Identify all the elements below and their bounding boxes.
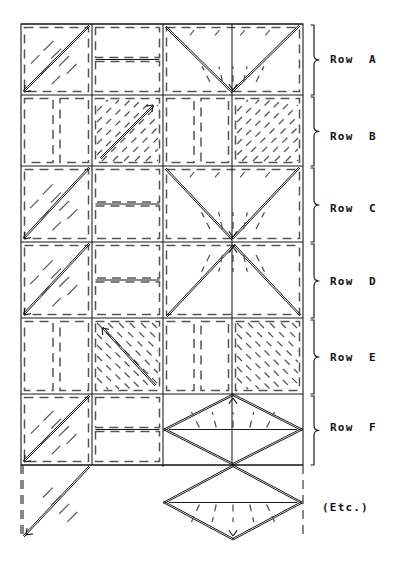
row-label-d: Row D — [330, 275, 377, 288]
row-label-b: Row B — [330, 130, 377, 143]
row-label-f: Row F — [330, 421, 377, 434]
row-label-a: Row A — [330, 53, 377, 66]
diagram-graphics — [21, 24, 303, 540]
etc-label: (Etc.) — [322, 501, 369, 514]
row-label-c: Row C — [330, 202, 377, 215]
row-label-e: Row E — [330, 351, 377, 364]
diagram-stage: Row ARow BRow CRow DRow ERow F(Etc.) — [0, 0, 402, 571]
row-brackets — [311, 25, 319, 465]
